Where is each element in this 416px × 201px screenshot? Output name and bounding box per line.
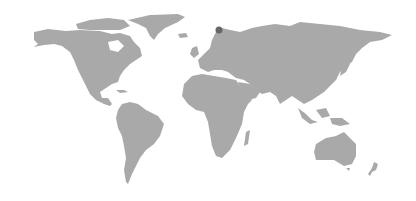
southeast-asia-islands[interactable] (298, 108, 350, 126)
greenland[interactable] (128, 14, 185, 40)
new-zealand[interactable] (368, 162, 378, 176)
north-america[interactable] (30, 29, 142, 106)
iceland[interactable] (178, 33, 188, 38)
caribbean[interactable] (116, 90, 128, 93)
south-america[interactable] (116, 102, 164, 184)
tasmania[interactable] (346, 168, 350, 171)
world-map (0, 0, 416, 201)
british-isles[interactable] (190, 46, 199, 58)
arctic-islands[interactable] (76, 18, 130, 30)
location-marker[interactable] (216, 27, 223, 34)
australia[interactable] (314, 132, 356, 166)
madagascar[interactable] (244, 130, 250, 146)
